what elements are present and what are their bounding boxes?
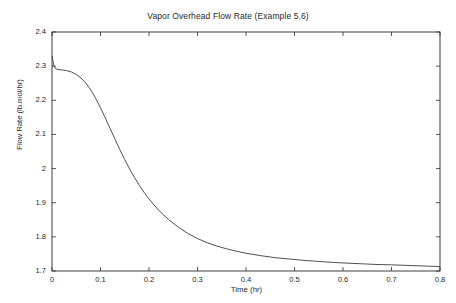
x-tick-label: 0.7 xyxy=(377,275,407,284)
plot-area xyxy=(0,0,456,303)
x-tick-label: 0.1 xyxy=(86,275,116,284)
tick-marks xyxy=(52,32,440,271)
x-tick-label: 0.8 xyxy=(425,275,455,284)
y-tick-label: 1.9 xyxy=(16,198,46,207)
y-tick-label: 1.8 xyxy=(16,232,46,241)
y-tick-label: 2.4 xyxy=(16,27,46,36)
figure-canvas: Vapor Overhead Flow Rate (Example 5.6) 1… xyxy=(0,0,456,303)
data-series-line xyxy=(52,56,440,267)
x-tick-label: 0.4 xyxy=(231,275,261,284)
x-tick-label: 0.3 xyxy=(183,275,213,284)
x-tick-label: 0 xyxy=(37,275,67,284)
x-tick-label: 0.5 xyxy=(280,275,310,284)
y-tick-label: 1.7 xyxy=(16,266,46,275)
axes-box xyxy=(52,32,440,271)
x-axis-label: Time (hr) xyxy=(52,285,441,294)
axes-frame xyxy=(52,32,440,271)
x-tick-label: 0.2 xyxy=(134,275,164,284)
y-axis-label: Flow Rate (lb.mol/hr) xyxy=(15,55,24,175)
x-tick-label: 0.6 xyxy=(328,275,358,284)
